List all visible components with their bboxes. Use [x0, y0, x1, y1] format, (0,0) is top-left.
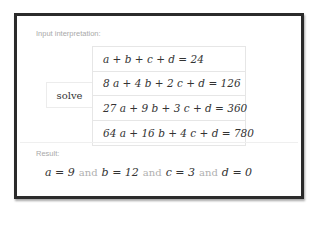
pod-divider — [20, 142, 298, 143]
result-label: Result: — [36, 149, 59, 158]
solution-d: d = 0 — [222, 166, 252, 179]
equations-table: a + b + c + d = 24 8 a + 4 b + 2 c + d =… — [92, 46, 246, 146]
equation-row: a + b + c + d = 24 — [93, 47, 245, 72]
solve-command-cell: solve — [46, 82, 92, 108]
equation-row: 8 a + 4 b + 2 c + d = 126 — [93, 72, 245, 97]
input-interpretation-label: Input interpretation: — [36, 29, 101, 38]
solution-a: a = 9 — [45, 166, 75, 179]
and-connector: and — [199, 167, 218, 178]
solution-b: b = 12 — [102, 166, 139, 179]
and-connector: and — [79, 167, 98, 178]
result-solution: a = 9andb = 12andc = 3andd = 0 — [45, 166, 252, 179]
and-connector: and — [143, 167, 162, 178]
solution-c: c = 3 — [166, 166, 195, 179]
equation-row: 27 a + 9 b + 3 c + d = 360 — [93, 96, 245, 121]
result-card: Input interpretation: solve a + b + c + … — [14, 13, 304, 199]
